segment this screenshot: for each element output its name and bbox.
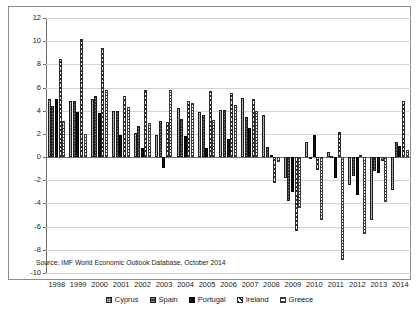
legend-item-portugal[interactable]: Portugal — [189, 296, 226, 304]
legend-label: Cyprus — [115, 296, 139, 304]
y-axis-tick-label: 2 — [37, 130, 41, 138]
x-axis-tick-label: 2003 — [156, 279, 173, 291]
bar-ireland-2008 — [273, 157, 276, 183]
x-axis-tick-label: 2001 — [113, 279, 130, 291]
x-axis-tick-label: 2000 — [91, 279, 108, 291]
legend-swatch-cyprus — [106, 297, 112, 303]
y-axis-tick-label: 8 — [37, 61, 41, 69]
legend-item-cyprus[interactable]: Cyprus — [106, 296, 139, 304]
bar-ireland-1998 — [59, 59, 62, 158]
x-axis-tick-label: 2009 — [285, 279, 302, 291]
legend-item-spain[interactable]: Spain — [150, 296, 178, 304]
x-axis-tick-label: 2014 — [392, 279, 409, 291]
y-axis-tick-label: -10 — [30, 269, 41, 277]
x-axis-tick-label: 2010 — [306, 279, 323, 291]
bar-group — [390, 18, 411, 273]
bar-group — [325, 18, 346, 273]
legend-swatch-spain — [150, 297, 156, 303]
bar-spain-2010 — [309, 157, 312, 159]
legend-label: Spain — [159, 296, 178, 304]
bar-ireland-2006 — [230, 93, 233, 157]
bar-group — [46, 18, 67, 273]
bar-ireland-2003 — [166, 122, 169, 157]
x-axis-tick-label: 2004 — [177, 279, 194, 291]
bar-cyprus-2009 — [284, 157, 287, 178]
bar-cyprus-2014 — [391, 157, 394, 189]
bar-greece-2006 — [234, 105, 237, 157]
y-axis-tick-label: -4 — [34, 200, 41, 208]
x-axis-tick-label: 2012 — [349, 279, 366, 291]
bar-portugal-2005 — [205, 148, 208, 157]
y-axis-tick-label: 10 — [33, 37, 41, 45]
bar-ireland-2005 — [209, 91, 212, 157]
bar-greece-2013 — [384, 157, 387, 202]
x-axis-tick-label: 1999 — [70, 279, 87, 291]
bar-greece-2009 — [298, 157, 301, 208]
bar-spain-2006 — [223, 110, 226, 158]
bar-spain-2013 — [373, 157, 376, 171]
x-axis-tick-label: 2005 — [199, 279, 216, 291]
bar-greece-2008 — [277, 157, 280, 162]
bar-group — [261, 18, 282, 273]
bar-portugal-2006 — [227, 139, 230, 158]
bar-greece-2002 — [148, 123, 151, 157]
chart-legend: CyprusSpainPortugalIrelandGreece — [0, 293, 419, 307]
bar-greece-2000 — [105, 90, 108, 157]
bar-ireland-2002 — [144, 90, 147, 157]
bar-portugal-2011 — [334, 157, 337, 178]
bar-ireland-2010 — [316, 157, 319, 170]
y-axis-tick-mark — [43, 273, 46, 274]
bar-spain-1999 — [73, 101, 76, 157]
bar-ireland-2000 — [101, 48, 104, 157]
bar-cyprus-2012 — [348, 157, 351, 185]
y-axis-tick-label: -8 — [34, 246, 41, 254]
x-axis-tick-label: 2002 — [134, 279, 151, 291]
bar-cyprus-2001 — [112, 111, 115, 157]
bar-spain-2000 — [94, 96, 97, 157]
bar-spain-2012 — [352, 157, 355, 176]
legend-item-ireland[interactable]: Ireland — [237, 296, 269, 304]
x-axis-tick-label: 2013 — [370, 279, 387, 291]
bar-ireland-2012 — [359, 155, 362, 157]
legend-item-greece[interactable]: Greece — [280, 296, 314, 304]
legend-label: Portugal — [198, 296, 226, 304]
bar-portugal-2010 — [313, 135, 316, 157]
bar-spain-2008 — [266, 147, 269, 157]
x-axis-tick-label: 2011 — [328, 279, 344, 291]
y-axis-tick-label: 6 — [37, 84, 41, 92]
legend-label: Ireland — [246, 296, 269, 304]
bar-spain-2011 — [330, 156, 333, 158]
bar-group — [239, 18, 260, 273]
bar-cyprus-1999 — [69, 101, 72, 157]
bar-cyprus-2002 — [134, 133, 137, 157]
bar-portugal-2014 — [398, 146, 401, 158]
bar-cyprus-1998 — [48, 99, 51, 157]
x-axis-tick-labels: 1998199920002001200220032004200520062007… — [46, 279, 411, 291]
bar-portugal-2002 — [141, 148, 144, 157]
bar-ireland-2013 — [381, 157, 384, 160]
bar-cyprus-2006 — [219, 110, 222, 158]
bar-spain-2009 — [287, 157, 290, 201]
bar-spain-2007 — [245, 117, 248, 158]
bar-portugal-2003 — [162, 157, 165, 167]
bar-spain-1998 — [51, 106, 54, 157]
bar-cyprus-2000 — [91, 99, 94, 157]
bar-portugal-2013 — [377, 157, 380, 173]
bar-cyprus-2010 — [305, 142, 308, 157]
bar-group — [368, 18, 389, 273]
bar-spain-2014 — [395, 142, 398, 157]
bar-greece-2014 — [406, 150, 409, 157]
bar-ireland-2009 — [295, 157, 298, 231]
bar-ireland-2001 — [123, 96, 126, 157]
x-axis-tick-label: 2007 — [242, 279, 259, 291]
bar-group — [67, 18, 88, 273]
x-axis-tick-label: 1998 — [48, 279, 65, 291]
legend-swatch-ireland — [237, 297, 243, 303]
y-axis-tick-label: 12 — [33, 14, 41, 22]
bar-ireland-1999 — [80, 39, 83, 157]
y-axis-tick-label: 4 — [37, 107, 41, 115]
bar-portugal-2012 — [356, 157, 359, 195]
bar-portugal-2000 — [98, 113, 101, 157]
bar-cyprus-2007 — [241, 98, 244, 157]
bar-greece-2012 — [363, 157, 366, 234]
